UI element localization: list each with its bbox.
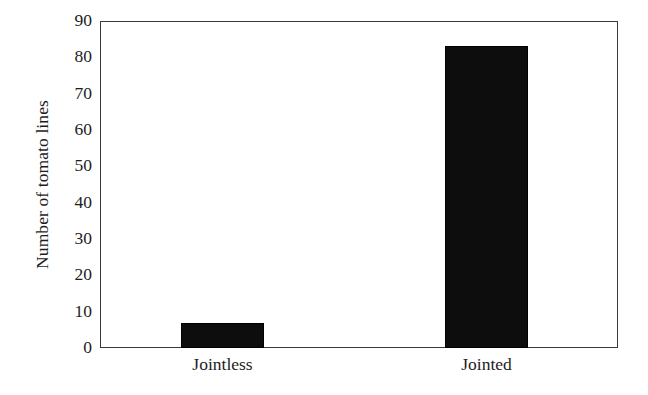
- x-tick-label: Jointed: [461, 356, 512, 374]
- bar-jointless: [181, 323, 264, 348]
- bar-jointed: [445, 46, 528, 348]
- x-tick-label: Jointless: [192, 356, 252, 374]
- bars-layer: JointlessJointed: [0, 0, 648, 395]
- bar-chart-figure: Number of tomato lines 01020304050607080…: [0, 0, 648, 395]
